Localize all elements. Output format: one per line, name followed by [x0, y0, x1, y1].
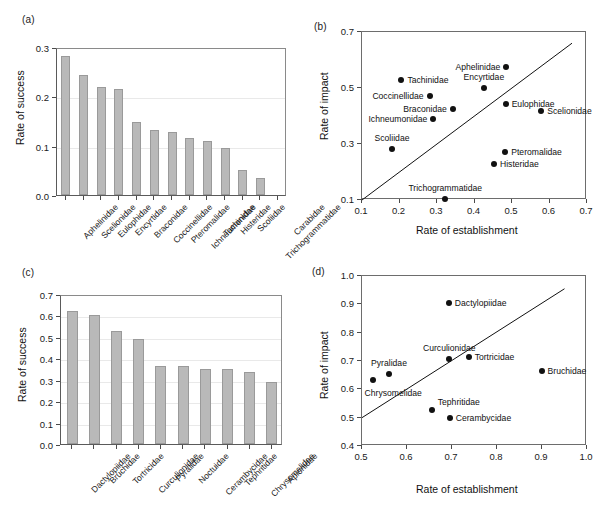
y-tick-label: 0.3 — [341, 138, 354, 149]
x-tick-label: 0.5 — [354, 451, 367, 462]
figure-container: (a) Rate of success 0.00.10.20.3 Aphelin… — [0, 0, 608, 515]
y-tick-label: 0.9 — [341, 298, 354, 309]
panel-d-letter: (d) — [312, 266, 325, 277]
data-point — [502, 149, 508, 155]
y-tick-label: 0.1 — [40, 418, 53, 429]
panel-c-y-axis-title: Rate of success — [16, 327, 28, 402]
data-point-label: Tachinidae — [407, 75, 448, 85]
x-tick-label: 0.6 — [542, 205, 555, 216]
x-tick-mark — [93, 445, 94, 449]
y-tick-label: 0.1 — [36, 141, 49, 152]
figure-caption-fragment — [0, 501, 608, 515]
x-tick-mark — [171, 196, 172, 200]
data-point-label: Encyrtidae — [464, 72, 505, 82]
data-point — [491, 161, 497, 167]
bar — [178, 366, 189, 444]
panel-b-letter: (b) — [314, 21, 327, 32]
y-tick-label: 0.3 — [40, 375, 53, 386]
data-point-label: Pteromalidae — [511, 147, 562, 157]
bar — [222, 369, 233, 444]
x-tick-mark — [118, 196, 119, 200]
bar — [155, 366, 166, 444]
x-tick-label: 1.0 — [579, 451, 592, 462]
bar — [111, 331, 122, 444]
data-point — [442, 196, 448, 202]
data-point-label: Curculionidae — [423, 343, 476, 353]
panel-d-x-axis-title: Rate of establishment — [416, 483, 518, 495]
data-point-label: Cerambycidae — [456, 413, 511, 423]
x-tick-mark — [153, 196, 154, 200]
y-tick-label: 0.0 — [40, 440, 53, 451]
bar — [114, 89, 123, 195]
x-tick-label: 0.2 — [392, 205, 405, 216]
y-tick-mark — [56, 445, 60, 446]
data-point-label: Bruchidae — [548, 366, 587, 376]
y-tick-label: 0.7 — [341, 26, 354, 37]
data-point-label: Tortricidae — [475, 352, 515, 362]
bar — [185, 138, 194, 195]
panel-d-y-axis-title: Rate of impact — [318, 331, 330, 399]
bar — [221, 148, 230, 195]
bar — [168, 132, 177, 195]
data-point-label: Pyralidae — [371, 358, 407, 368]
y-tick-label: 0.8 — [341, 326, 354, 337]
x-tick-mark — [204, 445, 205, 449]
data-point-label: Chrysomelidae — [365, 388, 422, 398]
x-tick-mark — [227, 445, 228, 449]
x-tick-mark — [277, 196, 278, 200]
panel-c: (c) Rate of success 0.00.10.20.30.40.50.… — [0, 257, 304, 515]
panel-a-letter: (a) — [22, 14, 35, 25]
y-tick-label: 1.0 — [341, 270, 354, 281]
y-tick-label: 0.4 — [40, 354, 53, 365]
bar — [200, 369, 211, 444]
y-tick-label: 0.6 — [40, 311, 53, 322]
bar — [244, 372, 255, 444]
bar — [266, 382, 277, 444]
bar — [133, 339, 144, 444]
data-point — [429, 407, 435, 413]
data-point-label: Aphelinidae — [455, 62, 500, 72]
data-point — [430, 116, 436, 122]
data-point — [427, 93, 433, 99]
panel-b-plot-area: AphelinidaeTachinidaeEncyrtidaeCoccinell… — [361, 31, 586, 199]
data-point — [446, 356, 452, 362]
x-tick-label: 0.8 — [489, 451, 502, 462]
bar — [150, 130, 159, 195]
x-tick-mark — [138, 445, 139, 449]
data-point — [466, 354, 472, 360]
y-tick-label: 0.4 — [341, 440, 354, 451]
data-point — [386, 371, 392, 377]
data-point — [503, 101, 509, 107]
x-tick-mark — [249, 445, 250, 449]
x-tick-label: 0.4 — [467, 205, 480, 216]
data-point — [370, 377, 376, 383]
data-point-label: Histeridae — [500, 159, 539, 169]
y-tick-label: 0.5 — [40, 332, 53, 343]
data-point-label: Braconidae — [403, 104, 446, 114]
y-tick-label: 0.7 — [341, 355, 354, 366]
x-tick-label: 0.5 — [504, 205, 517, 216]
y-tick-label: 0.5 — [341, 411, 354, 422]
bar — [97, 87, 106, 195]
y-tick-label: 0.1 — [341, 194, 354, 205]
data-point — [503, 64, 509, 70]
x-tick-mark — [182, 445, 183, 449]
x-tick-mark — [116, 445, 117, 449]
x-tick-mark — [259, 196, 260, 200]
data-point-label: Dactylopiidae — [455, 298, 507, 308]
data-point — [539, 368, 545, 374]
x-tick-mark — [65, 196, 66, 200]
data-point-label: Ichneumonidae — [368, 114, 427, 124]
panel-b-y-axis-title: Rate of impact — [318, 72, 330, 140]
panel-a-y-axis-title: Rate of success — [14, 70, 26, 145]
data-point-label: Tephritidae — [438, 397, 480, 407]
y-tick-label: 0.5 — [341, 82, 354, 93]
x-tick-mark — [271, 445, 272, 449]
y-tick-label: 0.0 — [36, 191, 49, 202]
bar — [61, 56, 70, 195]
panel-c-letter: (c) — [22, 267, 34, 278]
x-tick-label: 0.7 — [444, 451, 457, 462]
y-tick-mark — [52, 196, 56, 197]
data-point — [446, 300, 452, 306]
x-tick-label: 0.9 — [534, 451, 547, 462]
